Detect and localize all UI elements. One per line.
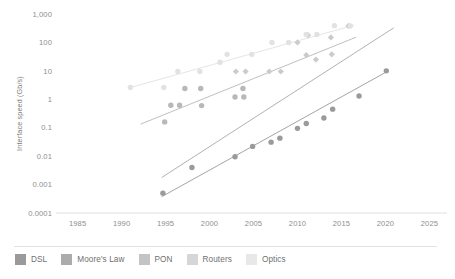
data-point-circle	[175, 69, 180, 74]
data-point-circle	[189, 165, 194, 170]
y-axis-tick-labels: 1,0001001010.10.010.0010.0001	[28, 10, 52, 218]
data-markers-group	[128, 23, 389, 196]
trendlines-group	[130, 25, 393, 196]
trend-line	[162, 71, 387, 196]
data-point-circle	[199, 103, 204, 108]
legend-item-list: DSLMoore's LawPONRoutersOptics	[15, 254, 300, 265]
chart-container: 1,0001001010.10.010.0010.0001 1985199019…	[0, 0, 455, 279]
legend-item[interactable]: Routers	[187, 254, 232, 265]
y-axis-tick-label: 0.1	[41, 123, 52, 132]
x-axis-tick-label: 1990	[113, 219, 130, 228]
x-axis-tick-label: 2010	[289, 219, 306, 228]
data-point-circle	[168, 102, 173, 107]
data-point-circle	[224, 52, 229, 57]
data-point-diamond	[266, 68, 272, 74]
data-point-circle	[277, 135, 282, 140]
legend-item-label: Moore's Law	[77, 255, 124, 264]
y-axis-tick-label: 0.01	[37, 152, 52, 161]
y-axis-tick-label: 0.0001	[28, 209, 52, 218]
data-point-circle	[286, 40, 291, 45]
data-point-circle	[177, 102, 182, 107]
legend-item-label: Routers	[203, 255, 232, 264]
x-axis-tick-label: 2000	[201, 219, 218, 228]
y-axis-tick-label: 0.001	[32, 180, 52, 189]
data-point-circle	[232, 94, 237, 99]
legend-item-label: Optics	[262, 255, 286, 264]
data-point-circle	[384, 68, 389, 73]
x-axis-tick-label: 2025	[421, 219, 438, 228]
legend-item[interactable]: DSL	[15, 254, 47, 265]
legend-swatch-icon	[246, 254, 257, 265]
data-point-circle	[160, 190, 165, 195]
data-point-circle	[304, 32, 309, 37]
legend-item[interactable]: Moore's Law	[61, 254, 124, 265]
legend-item-label: DSL	[31, 255, 47, 264]
trend-line	[141, 37, 356, 124]
x-axis-tick-labels: 198519901995200020052010201520202025	[69, 219, 438, 228]
legend-item-label: PON	[155, 255, 173, 264]
data-point-circle	[330, 106, 335, 111]
data-point-circle	[182, 86, 187, 91]
data-point-circle	[314, 32, 319, 37]
data-point-diamond	[278, 68, 284, 74]
legend-swatch-icon	[61, 254, 72, 265]
legend-item[interactable]: Optics	[246, 254, 286, 265]
legend-swatch-icon	[187, 254, 198, 265]
data-point-circle	[250, 144, 255, 149]
data-point-circle	[198, 86, 203, 91]
data-point-circle	[197, 69, 202, 74]
data-point-diamond	[233, 68, 239, 74]
chart-plot-area: 1,0001001010.10.010.0010.0001 1985199019…	[0, 0, 455, 279]
legend-swatch-icon	[15, 254, 26, 265]
data-point-diamond	[313, 56, 319, 62]
x-axis-tick-label: 2005	[245, 219, 262, 228]
data-point-circle	[249, 52, 254, 57]
data-point-circle	[161, 85, 166, 90]
y-axis-tick-label: 100	[39, 38, 52, 47]
y-axis-tick-label: 1,000	[32, 10, 52, 19]
data-point-circle	[321, 115, 326, 120]
data-point-circle	[295, 126, 300, 131]
y-axis-title: Interface speed (Gb/s)	[15, 76, 24, 151]
data-point-diamond	[242, 68, 248, 74]
data-point-circle	[356, 93, 361, 98]
legend-item[interactable]: PON	[139, 254, 173, 265]
chart-legend: DSLMoore's LawPONRoutersOptics	[0, 246, 455, 279]
data-point-circle	[241, 94, 246, 99]
data-point-diamond	[329, 51, 335, 57]
x-axis-tick-label: 1985	[69, 219, 86, 228]
data-point-circle	[304, 121, 309, 126]
data-point-circle	[268, 139, 273, 144]
data-point-circle	[162, 119, 167, 124]
data-point-circle	[232, 154, 237, 159]
data-point-diamond	[328, 34, 334, 40]
legend-divider	[14, 246, 437, 247]
data-point-circle	[332, 23, 337, 28]
y-axis-tick-label: 1	[48, 95, 52, 104]
trend-line	[162, 28, 393, 177]
x-axis-tick-label: 2015	[333, 219, 350, 228]
data-point-circle	[128, 85, 133, 90]
data-point-circle	[348, 23, 353, 28]
y-axis-title-group: Interface speed (Gb/s)	[15, 76, 24, 151]
data-point-circle	[217, 60, 222, 65]
x-axis-tick-label: 1995	[157, 219, 174, 228]
data-point-diamond	[303, 52, 309, 58]
data-point-circle	[269, 40, 274, 45]
legend-swatch-icon	[139, 254, 150, 265]
x-axis-tick-label: 2020	[377, 219, 394, 228]
trend-line	[130, 25, 353, 87]
y-axis-tick-label: 10	[43, 67, 52, 76]
data-point-circle	[240, 86, 245, 91]
